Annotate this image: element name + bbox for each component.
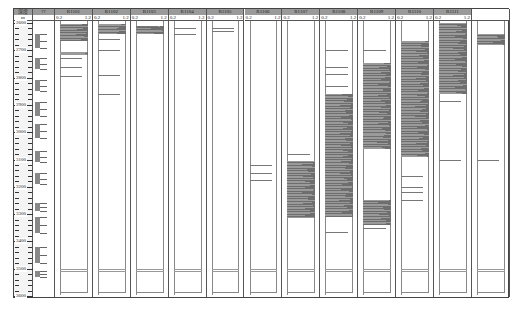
bar-marker [40, 271, 47, 272]
bar-marker [40, 91, 47, 92]
band-stripe [439, 93, 462, 94]
depth-tick [15, 198, 19, 199]
bar-marker [40, 116, 47, 117]
track-bottom-line [363, 269, 391, 270]
depth-label: 3400 [15, 238, 27, 244]
depth-tick [28, 127, 32, 128]
depth-tick [15, 230, 19, 231]
depth-tick [28, 89, 32, 90]
track-bottom-line [325, 271, 353, 272]
bar-marker [40, 207, 47, 208]
thin-marker [136, 26, 158, 27]
track-bottom-line [325, 269, 353, 270]
depth-tick [28, 274, 32, 275]
depth-tick [28, 236, 32, 237]
depth-tick [15, 170, 19, 171]
depth-label: 3500 [15, 266, 27, 272]
depth-tick [15, 192, 19, 193]
thin-marker [98, 50, 120, 51]
track-bottom-line [477, 269, 505, 270]
depth-tick [28, 258, 32, 259]
depth-tick [28, 56, 32, 57]
thin-marker [60, 67, 82, 68]
depth-tick [28, 176, 32, 177]
bar-marker [40, 217, 47, 218]
bar-marker [40, 131, 47, 132]
depth-tick [28, 94, 32, 95]
thin-marker [60, 58, 82, 59]
depth-tick [28, 198, 32, 199]
thin-marker [401, 187, 423, 188]
track-inner-box [136, 21, 164, 293]
depth-tick [28, 203, 32, 204]
depth-tick [28, 116, 32, 117]
depth-tick [28, 280, 32, 281]
track-bottom-line [287, 269, 315, 270]
thin-marker [477, 160, 499, 161]
depth-tick [28, 220, 32, 221]
depth-tick [15, 291, 19, 292]
bar-marker [40, 173, 47, 174]
band-stripe [136, 33, 154, 34]
depth-tick [15, 165, 19, 166]
depth-tick [15, 121, 19, 122]
depth-tick [15, 116, 19, 117]
band-stripe [363, 223, 385, 224]
depth-tick [15, 72, 19, 73]
depth-tick [28, 61, 32, 62]
bar-marker [40, 151, 47, 152]
track-bottom-line [250, 269, 278, 270]
track-inner-box [98, 21, 126, 293]
thin-marker [212, 28, 234, 29]
thin-marker [98, 94, 120, 95]
bar-marker [40, 157, 47, 158]
depth-tick [28, 192, 32, 193]
depth-tick [15, 181, 19, 182]
depth-tick [28, 67, 32, 68]
thin-marker [250, 180, 272, 181]
thin-marker [287, 154, 309, 155]
depth-tick [28, 99, 32, 100]
bar-marker [40, 274, 47, 275]
thin-marker [401, 176, 423, 177]
depth-tick [15, 280, 19, 281]
track-bottom-line [401, 269, 429, 270]
thin-marker [325, 74, 347, 75]
thin-marker [60, 76, 82, 77]
depth-tick [15, 220, 19, 221]
thin-marker [212, 31, 234, 32]
depth-tick [28, 72, 32, 73]
depth-tick [28, 83, 32, 84]
track-inner-box [287, 21, 315, 293]
thin-marker [250, 165, 272, 166]
depth-tick [28, 291, 32, 292]
depth-tick [15, 89, 19, 90]
bar-marker [40, 34, 47, 35]
track-bottom-line [174, 269, 202, 270]
thin-marker [98, 75, 120, 76]
thin-marker [363, 50, 385, 51]
thin-marker [174, 28, 196, 29]
band-stripe [60, 39, 81, 40]
track-inner-box [477, 21, 505, 293]
bar-marker [40, 48, 47, 49]
bar-marker [40, 102, 47, 103]
thin-marker [363, 228, 385, 229]
bar-marker [40, 69, 47, 70]
track-bottom-line [250, 271, 278, 272]
thin-marker [98, 39, 120, 40]
thin-marker [439, 160, 461, 161]
depth-tick [15, 99, 19, 100]
depth-tick [28, 230, 32, 231]
bar-marker [40, 86, 47, 87]
depth-tick [15, 67, 19, 68]
depth-tick [15, 56, 19, 57]
depth-tick [28, 165, 32, 166]
track-bottom-line [363, 271, 391, 272]
track-inner-box [60, 21, 88, 293]
bar-marker [40, 138, 47, 139]
depth-tick [15, 209, 19, 210]
thin-marker [325, 67, 347, 68]
depth-tick [15, 263, 19, 264]
band-stripe [363, 148, 384, 149]
